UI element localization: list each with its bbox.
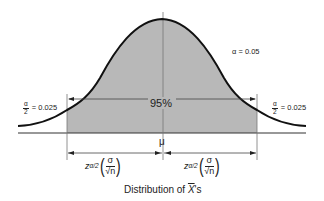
sigma-over-root-n: σ√n [204,156,214,176]
fraction-numerator: σ [106,156,116,166]
caption-suffix: 's [195,184,202,195]
alpha-over-two: α2 [23,101,29,115]
arrowhead-icon [68,151,74,155]
alpha-label: α = 0.05 [232,48,259,56]
left-paren: ( [100,156,105,176]
margin-of-error-right: zα/2 ( σ√n ) [184,156,221,176]
fraction-denominator: √n [105,167,115,176]
margin-of-error-left: zα/2 ( σ√n ) [85,156,122,176]
center-percentage-label: 95% [149,94,173,110]
fraction-denominator: √n [204,167,214,176]
z-subscript: α/2 [90,163,99,170]
arrowhead-icon [250,97,256,101]
caption-prefix: Distribution of [124,184,188,195]
right-paren: ) [215,156,220,176]
shaded-area-95 [67,19,257,133]
arrowhead-icon [155,151,161,155]
arrowhead-icon [250,151,256,155]
fraction-denominator: 2 [24,109,28,116]
fraction-numerator: σ [205,156,215,166]
diagram-caption: Distribution of X's [124,185,202,195]
arrowhead-icon [165,151,171,155]
right-tail-label: α2 = 0.025 [272,101,306,115]
percentage-text: 95% [149,97,173,109]
tail-value: = 0.025 [32,103,57,112]
x-bar-symbol: X [188,184,195,195]
arrowhead-icon [68,97,74,101]
mean-label: μ [159,137,165,147]
right-paren: ) [116,156,121,176]
left-paren: ( [199,156,204,176]
fraction-denominator: 2 [273,109,277,116]
left-tail-label: α2 = 0.025 [23,101,57,115]
alpha-over-two: α2 [272,101,278,115]
sigma-over-root-n: σ√n [105,156,115,176]
tail-value: = 0.025 [281,103,306,112]
z-subscript: α/2 [189,163,198,170]
